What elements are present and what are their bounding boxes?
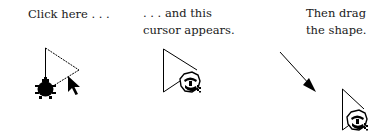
instruction-diagram: Click here . . . . . . and this cursor a… [0, 0, 387, 139]
drag-direction-arrow [280, 52, 316, 92]
step-1-illustration [35, 48, 80, 99]
diagram-artwork [0, 0, 387, 139]
arrow-cursor-icon [68, 76, 80, 95]
triangle-shape[interactable] [46, 48, 80, 86]
bug-icon [35, 77, 56, 99]
step-2-illustration [164, 49, 202, 93]
grab-hand-cursor-icon [347, 110, 368, 131]
step-3-illustration [280, 52, 368, 131]
grab-hand-cursor-icon [180, 72, 201, 93]
